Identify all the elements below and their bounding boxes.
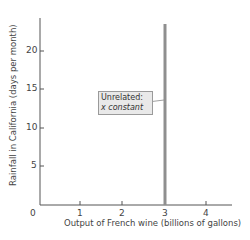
annotation-line2: x constant bbox=[101, 103, 150, 113]
plot-area bbox=[0, 0, 250, 240]
x-tick-label-2: 2 bbox=[119, 208, 125, 218]
x-tick-label-4: 4 bbox=[203, 208, 209, 218]
x-tick-label-3: 3 bbox=[162, 208, 168, 218]
y-tick-label-20: 20 bbox=[26, 45, 37, 55]
origin-label: 0 bbox=[30, 208, 36, 218]
y-tick-label-5: 5 bbox=[31, 160, 37, 170]
x-ticks bbox=[80, 201, 206, 205]
chart-container: 20 15 10 5 0 1 2 3 4 Rainfall in Califor… bbox=[0, 0, 250, 240]
x-axis-label: Output of French wine (billions of gallo… bbox=[64, 218, 241, 228]
y-axis-label: Rainfall in California (days per month) bbox=[8, 36, 18, 186]
y-ticks bbox=[40, 51, 44, 166]
y-tick-label-10: 10 bbox=[26, 122, 37, 132]
x-tick-label-1: 1 bbox=[77, 208, 83, 218]
y-tick-label-15: 15 bbox=[26, 83, 37, 93]
annotation-line1: Unrelated: bbox=[101, 93, 150, 103]
annotation-box: Unrelated: x constant bbox=[98, 91, 153, 115]
